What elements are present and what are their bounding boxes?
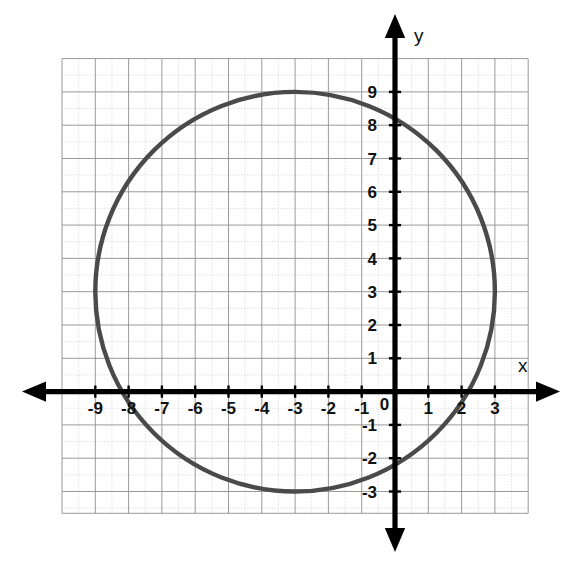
y-tick-label: 6 [368,183,377,202]
x-tick-label: -4 [254,399,270,418]
y-tick-label: 2 [368,316,377,335]
y-tick-label: 3 [368,283,377,302]
graph-svg: -9 -8 -7 -6 -5 -4 -3 -2 -1 0 1 2 3 9 8 7… [0,0,582,562]
x-axis-label: x [518,355,528,376]
x-tick-label: -8 [121,399,136,418]
x-tick-label: 1 [424,399,433,418]
origin-label: 0 [380,395,389,414]
y-tick-label: 4 [368,250,378,269]
x-tick-label: -9 [88,399,103,418]
y-tick-label: -1 [362,416,377,435]
x-tick-label: 3 [490,399,499,418]
x-tick-label: -6 [188,399,203,418]
y-tick-label: 1 [368,349,377,368]
y-tick-label: -2 [362,449,377,468]
y-tick-label: 8 [368,116,377,135]
x-tick-label: 2 [457,399,466,418]
x-tick-label: -2 [321,399,336,418]
y-tick-label: 5 [368,216,377,235]
x-tick-label: -3 [288,399,303,418]
y-axis-label: y [414,25,424,46]
y-tick-label: 9 [368,83,377,102]
y-tick-label: 7 [368,150,377,169]
x-tick-label: -5 [221,399,236,418]
y-tick-label: -3 [362,483,377,502]
x-tick-label: -7 [154,399,169,418]
coordinate-plane-figure: -9 -8 -7 -6 -5 -4 -3 -2 -1 0 1 2 3 9 8 7… [0,0,582,562]
